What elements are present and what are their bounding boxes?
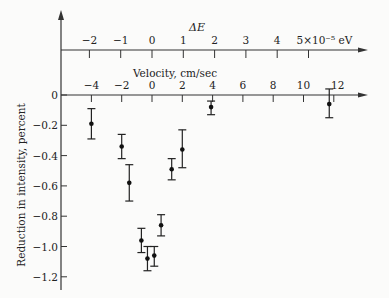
y-tick-label: −1.2 [33, 271, 59, 283]
data-point [207, 101, 215, 115]
data-marker [119, 144, 124, 149]
energy-tick-label: −2 [82, 34, 97, 46]
data-point [178, 130, 186, 168]
y-tick-label: −0.6 [33, 180, 59, 192]
y-tick-label: −0.4 [33, 150, 59, 162]
data-marker [89, 121, 94, 126]
data-point [125, 165, 133, 201]
energy-axis-label: ΔE [188, 21, 205, 34]
data-points [87, 89, 333, 271]
data-point [87, 109, 95, 139]
velocity-tick-label: −4 [84, 79, 100, 91]
data-point [143, 247, 151, 271]
data-point [325, 89, 333, 118]
data-marker [159, 223, 164, 228]
data-marker [145, 256, 150, 261]
energy-tick-label: −1 [113, 34, 128, 46]
mossbauer-chart: ΔE−2−1012345×10⁻⁵ eVVelocity, cm/sec−4−2… [0, 0, 389, 298]
energy-tick-label: 2 [211, 34, 218, 46]
data-point [157, 215, 165, 236]
energy-tick-label: 5×10⁻⁵ eV [297, 34, 353, 46]
data-marker [127, 181, 132, 186]
velocity-tick-label: 8 [270, 79, 277, 91]
velocity-tick-label: 6 [240, 79, 247, 91]
energy-tick-label: 4 [274, 34, 281, 46]
energy-tick-label: 0 [149, 34, 156, 46]
data-point [150, 247, 158, 267]
velocity-tick-label: 2 [179, 79, 186, 91]
y-axis-arrow-icon [58, 10, 64, 20]
data-point [118, 134, 126, 158]
data-marker [327, 102, 332, 107]
velocity-axis-arrow-icon [358, 93, 368, 98]
data-marker [152, 253, 157, 258]
y-tick-label: 0 [51, 89, 58, 101]
y-tick-label: −0.8 [33, 210, 59, 222]
velocity-axis-label: Velocity, cm/sec [132, 67, 217, 79]
energy-tick-label: 3 [243, 34, 250, 46]
y-tick-label: −0.2 [33, 119, 59, 131]
data-marker [180, 147, 185, 152]
data-point [168, 159, 176, 180]
y-tick-label: −1.0 [33, 241, 59, 253]
data-marker [209, 105, 214, 110]
data-marker [169, 167, 174, 172]
velocity-tick-label: 0 [149, 79, 156, 91]
y-axis-label: Reduction in intensity, percent [15, 102, 27, 266]
velocity-tick-label: −2 [114, 79, 129, 91]
energy-axis-arrow-icon [358, 48, 368, 53]
energy-tick-label: 1 [180, 34, 187, 46]
velocity-tick-label: 10 [297, 79, 310, 91]
axes: ΔE−2−1012345×10⁻⁵ eVVelocity, cm/sec−4−2… [15, 10, 368, 290]
data-marker [139, 238, 144, 243]
data-point [137, 228, 145, 252]
velocity-tick-label: 4 [209, 79, 216, 91]
